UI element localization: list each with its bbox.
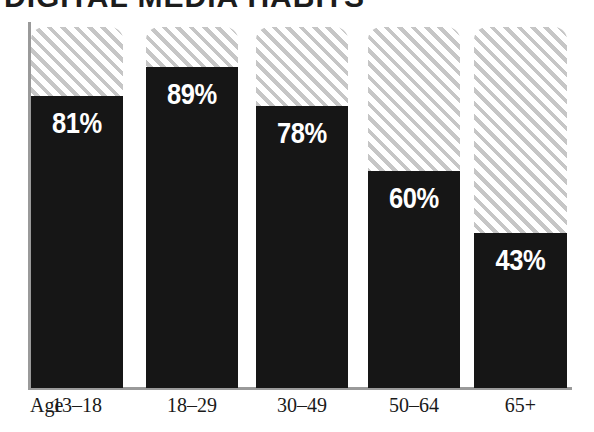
bar-value-label: 81% — [37, 109, 118, 138]
bar-value-label: 89% — [152, 80, 233, 109]
bar-fill: 89% — [146, 67, 238, 388]
bar-30-49: 78% — [256, 27, 348, 388]
bar-18-29: 89% — [146, 27, 238, 388]
bar-value-label: 78% — [262, 119, 343, 148]
bar-13-18: 81% — [31, 27, 123, 388]
x-tick-label-50-64: 50–64 — [368, 392, 460, 418]
x-tick-label-13-18: 13–18 — [31, 392, 123, 418]
x-tick-label-65-plus: 65+ — [474, 392, 567, 418]
bar-fill: 43% — [474, 233, 567, 388]
bar-fill: 60% — [368, 171, 460, 388]
chart-figure: DIGITAL MEDIA HABITS 81% 89% 78% 60 — [0, 0, 594, 432]
x-tick-label-30-49: 30–49 — [256, 392, 348, 418]
x-tick-label-18-29: 18–29 — [146, 392, 238, 418]
bar-65-plus: 43% — [474, 27, 567, 388]
bar-fill: 81% — [31, 96, 123, 388]
bar-value-label: 43% — [480, 246, 562, 275]
bar-value-label: 60% — [374, 184, 455, 213]
bar-50-64: 60% — [368, 27, 460, 388]
x-axis-category-labels: Age 13–18 18–29 30–49 50–64 65+ — [0, 392, 594, 422]
plot-area: 81% 89% 78% 60% 43% — [0, 0, 594, 396]
bar-fill: 78% — [256, 106, 348, 388]
